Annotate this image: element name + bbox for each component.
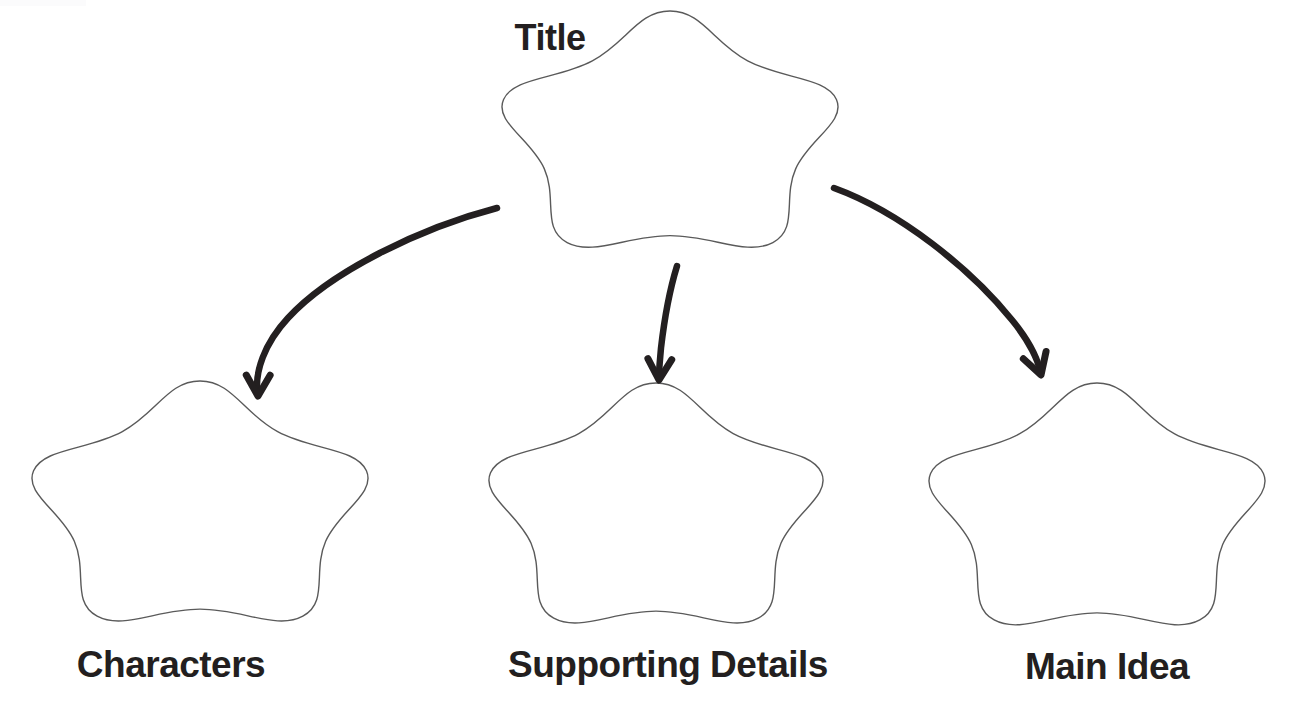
title-to-main-idea-line [834,188,1040,370]
worksheet-canvas: Title Characters Supporting Details Main… [0,0,1291,707]
title-node-label: Title [515,20,586,56]
title-to-characters-line [257,208,497,390]
title-to-main-idea-arrow [834,188,1046,375]
supporting-details-node-shape [489,383,823,623]
characters-node-shape [32,381,368,621]
supporting-details-node-label: Supporting Details [508,646,828,683]
title-to-supporting-details-arrow [648,266,677,380]
arrows-layer [246,188,1046,396]
main-idea-node-shape [929,383,1265,625]
title-to-characters-arrow [246,208,497,396]
main-idea-node-label: Main Idea [1025,648,1189,685]
shapes-layer [32,11,1265,625]
characters-node-label: Characters [77,646,265,683]
diagram-canvas [0,0,1291,707]
